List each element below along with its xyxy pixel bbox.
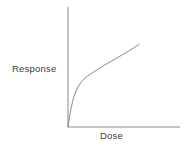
x-axis-label: Dose bbox=[100, 130, 123, 141]
dose-response-chart: Response Dose bbox=[0, 0, 192, 148]
response-curve bbox=[68, 44, 139, 127]
chart-canvas bbox=[0, 0, 192, 148]
y-axis-label: Response bbox=[12, 63, 56, 74]
